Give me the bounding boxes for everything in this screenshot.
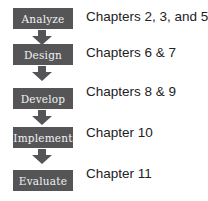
- chapter-label-develop: Chapters 8 & 9: [86, 84, 176, 99]
- down-arrow-icon: [31, 110, 53, 125]
- step-label: Implement: [13, 132, 72, 144]
- step-label: Develop: [21, 93, 66, 105]
- step-label: Evaluate: [19, 175, 67, 187]
- chapter-label-design: Chapters 6 & 7: [86, 45, 176, 60]
- down-arrow-icon: [31, 30, 53, 45]
- chapter-label-implement: Chapter 10: [86, 125, 153, 140]
- step-box-analyze: Analyze: [13, 8, 73, 29]
- step-label: Analyze: [21, 13, 64, 25]
- step-box-evaluate: Evaluate: [13, 170, 73, 191]
- step-label: Design: [24, 49, 62, 61]
- chapter-label-evaluate: Chapter 11: [86, 166, 152, 181]
- down-arrow-icon: [31, 149, 53, 164]
- step-box-implement: Implement: [13, 127, 73, 148]
- chapter-label-analyze: Chapters 2, 3, and 5: [86, 9, 208, 24]
- step-box-design: Design: [13, 44, 73, 65]
- down-arrow-icon: [31, 66, 53, 81]
- step-box-develop: Develop: [13, 88, 73, 109]
